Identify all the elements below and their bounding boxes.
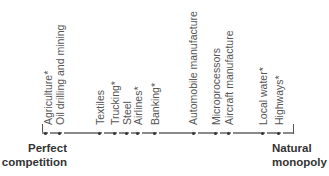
line-gap: [140, 131, 142, 135]
line-gap: [48, 131, 50, 135]
label-aircraft: Aircraft manufacture: [224, 30, 234, 125]
marker-aircraft: [227, 132, 230, 135]
marker-textiles: [98, 132, 101, 135]
natural-monopoly-line1: Natural: [272, 141, 327, 155]
label-agriculture: Agriculture*: [43, 71, 53, 125]
marker-trucking: [113, 132, 116, 135]
line-gap: [102, 131, 104, 135]
natural-monopoly-line2: monopoly: [272, 155, 327, 169]
label-banking: Banking*: [150, 83, 160, 125]
marker-banking: [153, 132, 156, 135]
marker-airlines: [136, 132, 139, 135]
label-automobile: Automobile manufacture: [188, 11, 198, 125]
marker-steel: [125, 132, 128, 135]
label-textiles: Textiles: [95, 90, 105, 125]
line-gap: [265, 131, 267, 135]
label-steel: Steel: [122, 101, 132, 125]
perfect-competition-label: Perfect competition: [2, 141, 67, 169]
label-trucking: Trucking*: [110, 81, 120, 125]
natural-monopoly-label: Natural monopoly: [272, 141, 327, 169]
line-gap: [129, 131, 131, 135]
marker-automobile: [192, 132, 195, 135]
perfect-competition-line2: competition: [2, 155, 67, 169]
label-oil-drilling: Oil drilling and mining: [55, 25, 65, 125]
line-gap: [281, 131, 283, 135]
line-gap: [62, 131, 64, 135]
line-gap: [157, 131, 159, 135]
label-local-water: Local water*: [258, 67, 268, 125]
right-end-tick: [293, 124, 294, 134]
marker-agriculture: [44, 132, 47, 135]
line-gap: [218, 131, 220, 135]
line-gap: [231, 131, 233, 135]
label-airlines: Airlines*: [133, 86, 143, 125]
marker-oil-drilling: [58, 132, 61, 135]
label-highways: Highways*: [274, 75, 284, 125]
spectrum-line: [42, 132, 294, 134]
marker-local-water: [261, 132, 264, 135]
line-gap: [196, 131, 198, 135]
label-microprocessors: Microprocessors: [211, 48, 221, 125]
perfect-competition-line1: Perfect: [2, 141, 67, 155]
market-structure-spectrum: Agriculture* Oil drilling and mining Tex…: [0, 0, 329, 176]
line-gap: [117, 131, 119, 135]
marker-highways: [277, 132, 280, 135]
marker-microprocessors: [214, 132, 217, 135]
